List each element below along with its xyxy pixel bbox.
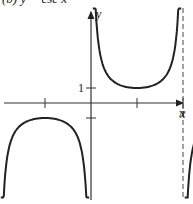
chart: x y π1: [0, 0, 193, 204]
y-tick-label: 1: [78, 81, 84, 95]
curve-branch-4: [185, 118, 193, 198]
x-tick-label: π: [179, 106, 186, 120]
curve-branch-3: [93, 9, 181, 89]
curve-branch-2: [1, 118, 89, 198]
